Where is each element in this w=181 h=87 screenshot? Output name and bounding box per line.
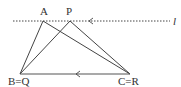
segment-AB <box>20 21 43 74</box>
point-P-label: P <box>66 5 72 17</box>
point-B-label: B=Q <box>8 75 30 87</box>
segment-AC <box>43 21 130 74</box>
line-l-label: l <box>173 15 176 27</box>
segment-PB <box>20 21 70 74</box>
point-A-label: A <box>40 5 48 17</box>
geometry-diagram: l A P B=Q C=R <box>0 0 181 87</box>
point-C-label: C=R <box>118 75 140 87</box>
segment-PC <box>70 21 130 74</box>
